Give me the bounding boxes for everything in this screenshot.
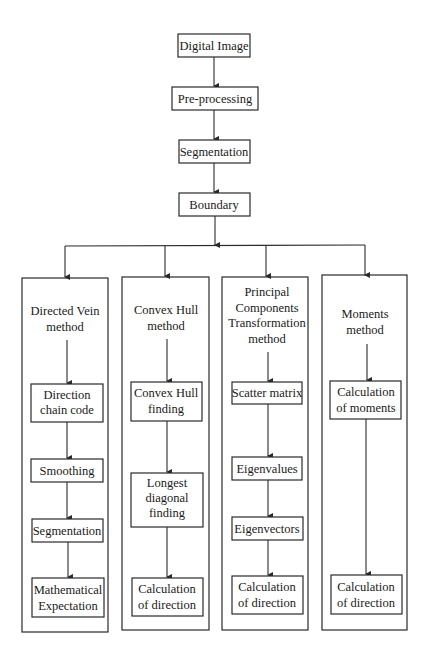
step-label: Calculation <box>337 580 395 594</box>
node-pre-processing: Pre-processing <box>172 87 258 110</box>
step-label: finding <box>148 402 185 416</box>
step-label: finding <box>149 506 186 520</box>
node-digital-image: Digital Image <box>178 34 250 57</box>
flowchart: Digital Image Pre-processing Segmentatio… <box>0 0 432 658</box>
method-title: Principal <box>244 285 290 299</box>
method-title: Convex Hull <box>134 303 199 317</box>
node-label: Boundary <box>189 198 239 212</box>
node-segmentation: Segmentation <box>179 140 250 163</box>
step-label: Smoothing <box>40 464 96 478</box>
step-label: Eigenvalues <box>236 462 297 476</box>
node-label: Digital Image <box>179 39 249 53</box>
method-directed-vein: Directed Vein method Direction chain cod… <box>22 278 108 632</box>
step-label: Calculation <box>337 385 395 399</box>
step-label: of moments <box>336 401 396 415</box>
method-title: Directed Vein <box>31 304 101 318</box>
method-title: method <box>248 332 286 346</box>
step-label: Segmentation <box>33 524 102 538</box>
step-label: of direction <box>337 596 396 610</box>
branch-connector <box>65 245 365 246</box>
method-title: Transformation <box>228 316 306 330</box>
method-title: method <box>147 319 185 333</box>
step-label: of direction <box>238 596 297 610</box>
step-label: Longest <box>147 476 188 490</box>
method-moments: Moments method Calculation of moments Ca… <box>322 275 407 630</box>
step-label: Scatter matrix <box>232 386 303 400</box>
method-title: method <box>46 320 84 334</box>
node-label: Segmentation <box>180 145 249 159</box>
step-label: diagonal <box>145 491 189 505</box>
step-label: Calculation <box>238 580 296 594</box>
method-title: method <box>346 323 384 337</box>
step-label: of direction <box>138 598 197 612</box>
step-label: Mathematical <box>34 583 103 597</box>
step-label: Expectation <box>38 599 98 613</box>
method-principal-components: Principal Components Transformation meth… <box>222 277 308 630</box>
node-boundary: Boundary <box>179 193 250 216</box>
method-title: Components <box>235 301 298 315</box>
step-label: chain code <box>40 403 94 417</box>
step-label: Eigenvectors <box>234 522 299 536</box>
step-label: Direction <box>43 388 91 402</box>
step-label: Calculation <box>138 582 196 596</box>
step-label: Convex Hull <box>134 386 199 400</box>
method-convex-hull: Convex Hull method Convex Hull finding L… <box>122 277 209 630</box>
method-title: Moments <box>341 307 388 321</box>
node-label: Pre-processing <box>178 92 253 106</box>
